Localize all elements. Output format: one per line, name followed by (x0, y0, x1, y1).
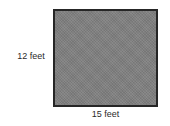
rectangle-shape (53, 9, 158, 107)
rectangle-dimension-diagram: 12 feet 15 feet (0, 0, 170, 126)
height-label: 12 feet (10, 51, 52, 62)
rectangle-fill-texture (55, 11, 156, 105)
width-label: 15 feet (53, 109, 158, 120)
